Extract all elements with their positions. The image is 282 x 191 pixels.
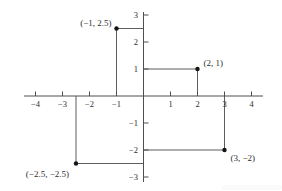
data-point (195, 67, 199, 71)
data-point (74, 161, 78, 165)
x-tick-label: −3 (58, 99, 67, 109)
y-tick-label: 3 (134, 10, 138, 20)
x-tick-label: −1 (112, 99, 121, 109)
faint-page-artifact (222, 185, 282, 190)
x-tick-label: −2 (85, 99, 94, 109)
point-label: (−1, 2.5) (80, 18, 111, 28)
x-tick-label: 1 (168, 99, 172, 109)
point-label: (−2.5, −2.5) (26, 169, 69, 179)
y-tick-label: 1 (134, 64, 138, 74)
x-tick-label: −4 (31, 99, 41, 109)
x-tick-label: 3 (222, 99, 226, 109)
y-tick-label: 2 (134, 37, 138, 47)
figure: −4−3−2−11234321−1−2−3(−1, 2.5)(2, 1)(−2.… (0, 0, 282, 191)
y-tick-label: −2 (129, 145, 138, 155)
point-label: (3, −2) (231, 153, 256, 163)
coordinate-plane: −4−3−2−11234321−1−2−3(−1, 2.5)(2, 1)(−2.… (0, 0, 282, 191)
point-label: (2, 1) (204, 58, 224, 68)
y-tick-label: −1 (129, 118, 138, 128)
x-tick-label: 4 (249, 99, 254, 109)
data-point (222, 148, 226, 152)
y-tick-label: −3 (129, 172, 138, 182)
data-point (114, 26, 118, 30)
x-tick-label: 2 (195, 99, 199, 109)
